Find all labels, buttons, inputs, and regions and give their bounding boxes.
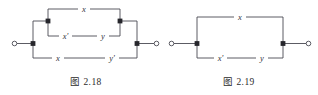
fig18-bottom-label-x: x (55, 53, 60, 63)
fig18-inner-top-right-node (118, 19, 123, 24)
fig19-right-terminal-circle (306, 41, 311, 46)
figure-stage: x x' y x y' x (0, 0, 318, 95)
fig19-bottom-label-y: y (259, 53, 264, 63)
fig19-right-junction-node (281, 41, 286, 46)
fig19-left-junction-node (195, 41, 200, 46)
figure-2-19-caption: 图 2.19 (160, 74, 318, 88)
fig18-right-junction-node (135, 41, 140, 46)
fig18-inner-top-left-node (46, 19, 51, 24)
figure-2-18-caption: 图 2.18 (0, 74, 172, 88)
fig19-left-terminal-circle (169, 41, 174, 46)
fig18-middle-label-y: y (100, 31, 105, 41)
fig18-middle-label-x-prime: x' (62, 31, 69, 41)
fig18-right-terminal-circle (154, 41, 159, 46)
fig19-bottom-label-x-prime: x' (217, 53, 224, 63)
fig18-left-junction-node (31, 41, 36, 46)
fig18-top-label-x: x (81, 4, 86, 14)
fig18-bottom-label-y-prime: y' (108, 53, 115, 63)
fig19-top-label-x: x (237, 12, 242, 22)
fig18-left-terminal-circle (12, 41, 17, 46)
